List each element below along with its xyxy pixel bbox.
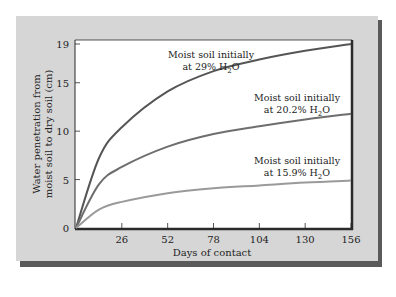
y-tick-label: 10 — [56, 126, 69, 137]
x-tick-label: 26 — [115, 234, 128, 245]
y-axis-label-line2: moist soil to dry soil (cm) — [43, 70, 54, 199]
series-label-line1: Moist soil initially — [254, 92, 341, 103]
x-tick-label: 78 — [207, 234, 220, 245]
y-tick-label: 0 — [63, 223, 69, 234]
x-tick-label: 104 — [250, 234, 269, 245]
x-tick-label: 156 — [341, 234, 360, 245]
y-tick-label: 19 — [56, 39, 69, 50]
x-axis-label: Days of contact — [173, 247, 252, 258]
y-tick-label: 15 — [56, 78, 69, 89]
y-tick-label: 5 — [63, 175, 69, 186]
y-axis-label: Water penetration from moist soil to dry… — [31, 70, 54, 199]
y-axis-label-line1: Water penetration from — [31, 74, 42, 194]
series-label-line1: Moist soil initially — [168, 49, 255, 60]
x-tick-label: 52 — [161, 234, 174, 245]
series-label-line1: Moist soil initially — [254, 155, 341, 166]
chart-figure: 05101519 265278104130156 Moist soil init… — [0, 0, 396, 297]
x-tick-label: 130 — [296, 234, 315, 245]
